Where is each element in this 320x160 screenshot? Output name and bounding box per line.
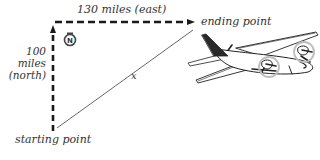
svg-text:N: N — [67, 37, 73, 45]
north-arrow-head — [50, 25, 56, 33]
airplane-icon — [188, 32, 318, 83]
hypotenuse-label: x — [131, 70, 137, 82]
north-distance-unit: miles — [0, 57, 46, 69]
north-distance-value: 100 — [0, 45, 46, 57]
starting-point-label: starting point — [15, 134, 91, 146]
north-direction: (north) — [0, 69, 46, 81]
hypotenuse-line — [57, 30, 193, 128]
ending-point-label: ending point — [201, 16, 271, 28]
north-distance-label: 100 miles (north) — [0, 45, 46, 81]
east-arrow-head — [187, 19, 195, 25]
compass-north-icon: N — [65, 33, 76, 46]
east-distance-label: 130 miles (east) — [77, 4, 166, 16]
